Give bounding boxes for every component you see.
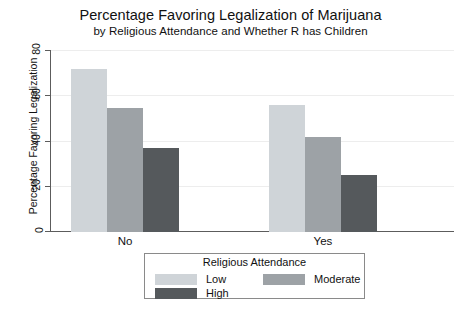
legend-swatch-moderate	[263, 274, 305, 285]
y-tick-value: 80	[30, 43, 42, 55]
y-tick-label: 20	[0, 179, 42, 191]
x-tick-label-yes: Yes	[283, 235, 363, 247]
y-tick-label: 40	[0, 134, 42, 146]
legend: Religious Attendance Low Moderate High	[144, 253, 365, 299]
legend-swatch-low	[155, 274, 197, 285]
chart-subtitle: by Religious Attendance and Whether R ha…	[0, 24, 461, 38]
bar-yes-low	[269, 105, 305, 232]
legend-item-low[interactable]: Low	[155, 273, 226, 285]
legend-item-moderate[interactable]: Moderate	[263, 273, 360, 285]
page-title: Percentage Favoring Legalization of Mari…	[0, 7, 461, 24]
bar-yes-high	[341, 175, 377, 232]
y-tick-value: 0	[33, 227, 45, 233]
chart-title-block: Percentage Favoring Legalization of Mari…	[0, 7, 461, 38]
x-tick-label-no: No	[85, 235, 165, 247]
y-tick-value: 20	[30, 179, 42, 191]
plot-area	[50, 50, 454, 232]
legend-label-high: High	[206, 287, 229, 299]
bar-chart: Percentage Favoring Legalization of Mari…	[0, 0, 461, 318]
bar-no-moderate	[107, 108, 143, 232]
y-tick-label: 80	[0, 43, 42, 55]
legend-label-low: Low	[206, 273, 226, 285]
bar-yes-moderate	[305, 137, 341, 232]
y-tick-value: 60	[30, 88, 42, 100]
bar-no-high	[143, 148, 179, 232]
legend-item-high[interactable]: High	[155, 287, 229, 299]
legend-label-moderate: Moderate	[314, 273, 360, 285]
legend-swatch-high	[155, 288, 197, 299]
legend-title: Religious Attendance	[145, 256, 364, 268]
y-tick-label: 0	[0, 224, 42, 236]
y-tick-label: 60	[0, 88, 42, 100]
y-tick-value: 40	[30, 134, 42, 146]
bar-no-low	[71, 69, 107, 232]
